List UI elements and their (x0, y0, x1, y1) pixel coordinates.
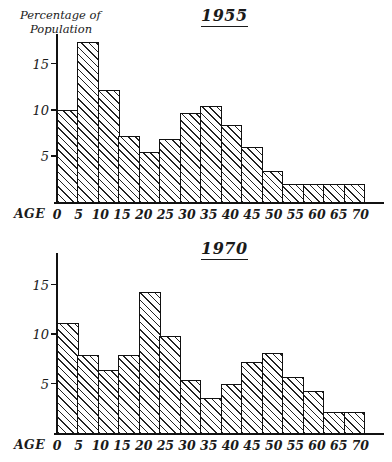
histogram-bar (98, 90, 120, 203)
histogram-bar (323, 184, 345, 202)
y-axis-label-line2: Population (20, 22, 101, 36)
y-axis-label-1955: Percentage of Population (20, 8, 101, 36)
y-axis-label-line1: Percentage of (20, 8, 101, 22)
chart-figure-1955: 1955 Percentage of Population AGE 51015 … (0, 0, 392, 231)
histogram-bar (282, 377, 304, 433)
x-axis-line-1970 (54, 433, 384, 435)
x-tick-label: 45 (243, 438, 260, 453)
histogram-bar (180, 380, 202, 433)
histogram-bar (57, 323, 79, 433)
histogram-bar (221, 384, 243, 433)
x-tick-label: 5 (74, 438, 83, 453)
x-tick-label: 25 (157, 438, 174, 453)
y-tick-label: 5 (23, 376, 49, 391)
x-tick-label: 15 (113, 207, 130, 222)
x-tick-label: 15 (113, 438, 130, 453)
histogram-bar (323, 412, 345, 433)
x-tick-label: 10 (92, 207, 109, 222)
x-tick-label: 20 (135, 207, 152, 222)
x-tick-label: 65 (330, 438, 347, 453)
histogram-bar (77, 355, 99, 433)
histogram-bar (221, 125, 243, 202)
histogram-bar (241, 362, 263, 433)
histogram-bar (200, 398, 222, 433)
x-tick-label: 10 (92, 438, 109, 453)
histogram-bar (159, 336, 181, 433)
x-tick-label: 30 (178, 438, 195, 453)
histogram-bar (77, 42, 99, 202)
histogram-bar (282, 184, 304, 202)
histogram-bar (262, 171, 284, 202)
chart-title-1955: 1955 (201, 8, 248, 27)
x-tick-label: 50 (265, 207, 282, 222)
bar-series-1955 (57, 36, 382, 202)
y-tick-mark (51, 155, 57, 157)
x-tick-label: 35 (200, 438, 217, 453)
x-tick-label: 5 (74, 207, 83, 222)
histogram-bar (344, 412, 366, 433)
y-tick-mark (51, 284, 57, 286)
histogram-bar (180, 113, 202, 202)
y-tick-label: 10 (23, 102, 49, 117)
histogram-bar (118, 136, 140, 202)
histogram-bar (241, 147, 263, 202)
histogram-bar (262, 353, 284, 433)
histogram-bar (139, 292, 161, 433)
histogram-bar (118, 355, 140, 433)
histogram-bar (200, 106, 222, 202)
y-tick-label: 15 (23, 56, 49, 71)
x-tick-label: 70 (352, 438, 369, 453)
x-tick-label: 60 (308, 438, 325, 453)
x-tick-label: 0 (53, 207, 62, 222)
chart-figure-1970: 1970 AGE 51015 0510152025303540455055606… (0, 231, 392, 462)
y-tick-label: 15 (23, 277, 49, 292)
x-tick-label: 40 (222, 207, 239, 222)
histogram-bar (303, 184, 325, 202)
y-tick-mark (51, 383, 57, 385)
x-tick-label: 70 (352, 207, 369, 222)
x-tick-label: 30 (178, 207, 195, 222)
y-axis-line-1970 (56, 253, 58, 433)
y-tick-mark (51, 63, 57, 65)
x-tick-label: 20 (135, 438, 152, 453)
x-axis-label-1970: AGE (14, 437, 45, 452)
plot-area-1955: 51015 0510152025303540455055606570 (57, 36, 382, 202)
histogram-bar (139, 152, 161, 202)
y-axis-line-1955 (56, 34, 58, 202)
x-axis-label-1955: AGE (14, 206, 45, 221)
y-tick-label: 10 (23, 327, 49, 342)
x-tick-label: 25 (157, 207, 174, 222)
x-tick-label: 65 (330, 207, 347, 222)
x-tick-label: 55 (287, 207, 304, 222)
bar-series-1970 (57, 255, 382, 433)
histogram-bar (344, 184, 366, 202)
x-tick-label: 40 (222, 438, 239, 453)
histogram-bar (98, 370, 120, 433)
histogram-bar (57, 110, 79, 202)
x-tick-label: 35 (200, 207, 217, 222)
x-tick-label: 45 (243, 207, 260, 222)
x-tick-label: 60 (308, 207, 325, 222)
x-axis-line-1955 (54, 202, 384, 204)
y-tick-label: 5 (23, 148, 49, 163)
x-tick-label: 50 (265, 438, 282, 453)
y-tick-mark (51, 333, 57, 335)
x-tick-label: 55 (287, 438, 304, 453)
plot-area-1970: 51015 0510152025303540455055606570 (57, 255, 382, 433)
x-tick-label: 0 (53, 438, 62, 453)
histogram-bar (303, 391, 325, 433)
histogram-bar (159, 139, 181, 202)
y-tick-mark (51, 109, 57, 111)
